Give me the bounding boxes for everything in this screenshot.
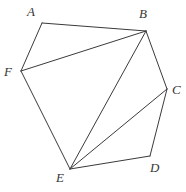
vertex-label-b: B	[139, 7, 147, 20]
hexagon-perimeter	[21, 23, 167, 169]
edge-EF	[21, 71, 70, 169]
hexagon-diagonals	[21, 31, 167, 169]
vertex-label-c: C	[172, 83, 181, 96]
edge-AB	[42, 23, 146, 31]
edge-DE	[70, 156, 150, 169]
geometry-figure: ABCDEF	[0, 0, 186, 192]
edge-FA	[21, 23, 42, 71]
edge-CD	[150, 89, 167, 156]
diagonal-CE	[70, 89, 167, 169]
edge-BC	[146, 31, 167, 89]
vertex-label-a: A	[27, 5, 35, 18]
vertex-label-d: D	[150, 161, 159, 174]
vertex-label-e: E	[56, 171, 64, 184]
vertex-label-f: F	[4, 65, 12, 78]
